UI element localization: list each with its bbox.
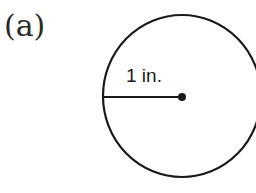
radius-label: 1 in. bbox=[126, 66, 162, 85]
part-label: (a) bbox=[4, 11, 45, 41]
center-point bbox=[178, 93, 186, 101]
